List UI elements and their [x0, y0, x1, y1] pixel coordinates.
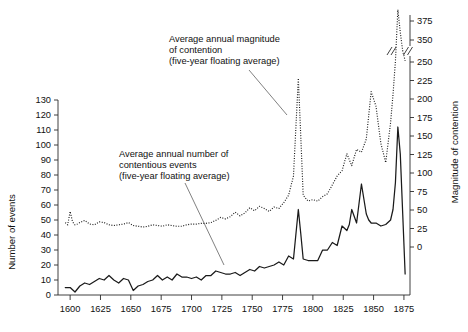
magnitude-annotation-line-2: of contention: [169, 45, 222, 55]
bottom-axis-tick-label: 1800: [303, 304, 324, 314]
left-axis-title: Number of events: [6, 194, 17, 270]
annotation-leader-lines: [185, 70, 287, 265]
bottom-axis-tick-label: 1600: [60, 304, 81, 314]
right-axis-tick-label: 100: [417, 168, 433, 178]
right-axis-tick-label: 125: [417, 150, 433, 160]
bottom-axis-tick-label: 1725: [212, 304, 233, 314]
right-axis-title: Magnitude of contention: [449, 101, 460, 203]
bottom-axis-tick-label: 1775: [272, 304, 293, 314]
events-annotation-line-1: Average annual number of: [119, 149, 229, 159]
bottom-axis: 1600162516501675170017251750177518001825…: [58, 295, 414, 314]
magnitude-annotation-line-3: (five-year floating average): [169, 56, 280, 66]
right-axis-tick-label: 350: [417, 35, 433, 45]
series-number-of-contentious-events: [65, 127, 405, 292]
bottom-axis-tick-label: 1850: [363, 304, 384, 314]
left-axis-tick-label: 0: [46, 290, 51, 300]
left-axis-tick-label: 80: [41, 170, 51, 180]
bottom-axis-tick-label: 1875: [394, 304, 415, 314]
right-axis-tick-label: 50: [417, 205, 427, 215]
right-axis-tick-label: 200: [417, 94, 433, 104]
bottom-axis-tick-label: 1625: [90, 304, 111, 314]
magnitude-annotation-line-1: Average annual magnitude: [169, 34, 280, 44]
left-axis-tick-label: 40: [41, 230, 51, 240]
right-axis-tick-label: 75: [417, 187, 427, 197]
events-annotation: Average annual number of contentious eve…: [119, 149, 230, 181]
magnitude-annotation: Average annual magnitude of contention (…: [169, 34, 280, 66]
left-axis-tick-label: 50: [41, 215, 51, 225]
events-annotation-line-2: contentious events: [119, 160, 197, 170]
bottom-axis-tick-label: 1650: [120, 304, 141, 314]
right-axis-tick-label: 225: [417, 76, 433, 86]
left-axis-tick-label: 70: [41, 185, 51, 195]
right-axis-tick-label: 25: [417, 224, 427, 234]
data-series-group: [65, 10, 405, 292]
right-axis-tick-label: 250: [417, 57, 433, 67]
left-axis-tick-label: 130: [35, 95, 51, 105]
chart-canvas: 0102030405060708090100110120130 02550751…: [0, 0, 468, 332]
bottom-axis-tick-label: 1825: [333, 304, 354, 314]
left-axis-tick-label: 60: [41, 200, 51, 210]
chart-figure: 0102030405060708090100110120130 02550751…: [0, 0, 468, 332]
bottom-axis-tick-label: 1675: [151, 304, 172, 314]
left-axis-tick-label: 100: [35, 140, 51, 150]
events-annotation-line-3: (five-year floating average): [119, 171, 230, 181]
left-axis-tick-label: 110: [36, 125, 51, 135]
left-axis-tick-label: 10: [41, 275, 51, 285]
left-axis-tick-label: 120: [35, 110, 51, 120]
left-axis-tick-label: 30: [41, 245, 51, 255]
left-axis-tick-label: 20: [41, 260, 51, 270]
left-axis-tick-label: 90: [41, 155, 51, 165]
right-axis-tick-label: 175: [417, 113, 433, 123]
right-axis-tick-label: 150: [417, 131, 433, 141]
left-axis: 0102030405060708090100110120130: [35, 95, 58, 300]
bottom-axis-tick-label: 1700: [181, 304, 202, 314]
right-axis-tick-label: 0: [417, 242, 422, 252]
bottom-axis-tick-label: 1750: [242, 304, 263, 314]
right-axis-tick-label: 375: [417, 16, 433, 26]
right-axis: 0255075100125150175200225250350375: [387, 15, 433, 295]
magnitude-annotation-leader: [249, 70, 287, 115]
